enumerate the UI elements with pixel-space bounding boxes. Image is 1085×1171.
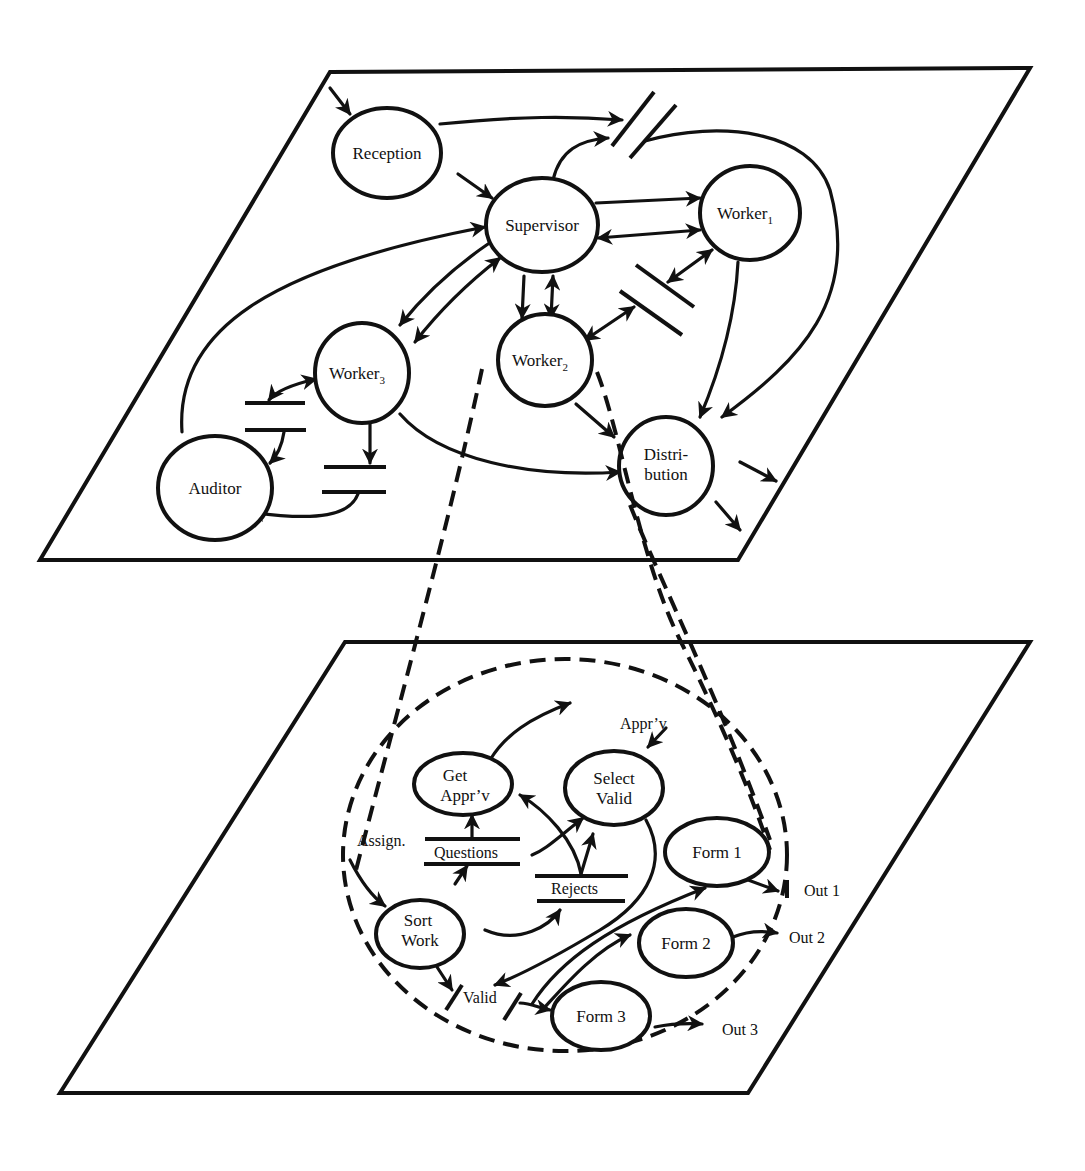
questions-label: Questions: [434, 844, 498, 861]
store-mid: [620, 265, 694, 335]
auditor-label: Auditor: [189, 479, 242, 498]
worker1-label: Worker: [717, 204, 768, 223]
svg-text:Worker3: Worker3: [329, 364, 386, 386]
supervisor-label: Supervisor: [505, 216, 579, 235]
node-form2[interactable]: Form 2: [639, 909, 733, 977]
sort-work-label-line1: Sort: [404, 911, 433, 930]
worker3-subscript: 3: [380, 374, 386, 386]
node-sort-work[interactable]: Sort Work: [376, 900, 464, 968]
node-form3[interactable]: Form 3: [552, 982, 650, 1050]
node-reception[interactable]: Reception: [333, 108, 441, 198]
worker1-subscript: 1: [768, 214, 774, 226]
worker2-label: Worker: [512, 351, 563, 370]
form3-label: Form 3: [576, 1007, 626, 1026]
node-get-apprv[interactable]: Get Appr’v: [414, 753, 512, 815]
store-questions: Questions: [424, 839, 520, 864]
store-rejects: Rejects: [535, 876, 628, 901]
bottom-plane: Questions Rejects Valid: [60, 642, 1030, 1093]
distribution-label-line1: Distri-: [644, 445, 689, 464]
get-apprv-label-line1: Get: [443, 766, 468, 785]
node-worker1[interactable]: Worker1: [700, 166, 800, 260]
get-apprv-label-line2: Appr’v: [440, 786, 490, 805]
apprv-input-label: Appr’v: [620, 715, 667, 733]
node-worker2[interactable]: Worker2: [498, 314, 592, 406]
worker3-label: Worker: [329, 364, 380, 383]
form1-label: Form 1: [692, 843, 742, 862]
store-valid: Valid: [446, 985, 521, 1020]
node-form1[interactable]: Form 1: [665, 818, 769, 886]
svg-text:Worker2: Worker2: [512, 351, 568, 373]
out2-label: Out 2: [789, 929, 825, 946]
out1-label: Out 1: [804, 882, 840, 899]
assign-label: Assign.: [357, 832, 405, 850]
store-bottom: [322, 467, 386, 492]
bottom-plane-border: [60, 642, 1030, 1093]
sort-work-label-line2: Work: [401, 931, 439, 950]
reception-label: Reception: [353, 144, 422, 163]
node-worker3[interactable]: Worker3: [315, 323, 409, 423]
select-valid-label-line2: Valid: [596, 789, 632, 808]
out3-label: Out 3: [722, 1021, 758, 1038]
select-valid-label-line1: Select: [593, 769, 635, 788]
top-plane: Reception Supervisor Worker1 Worker2 Wor…: [40, 68, 1030, 560]
node-select-valid[interactable]: Select Valid: [565, 751, 663, 825]
svg-text:Worker1: Worker1: [717, 204, 773, 226]
node-supervisor[interactable]: Supervisor: [486, 178, 598, 272]
rejects-label: Rejects: [551, 880, 598, 898]
distribution-label-line2: bution: [644, 465, 688, 484]
dfd-diagram: Reception Supervisor Worker1 Worker2 Wor…: [0, 0, 1085, 1171]
worker2-subscript: 2: [563, 361, 569, 373]
node-auditor[interactable]: Auditor: [158, 436, 272, 540]
store-top: [612, 92, 676, 158]
form2-label: Form 2: [661, 934, 711, 953]
valid-label: Valid: [463, 989, 497, 1006]
store-left: [245, 403, 306, 430]
